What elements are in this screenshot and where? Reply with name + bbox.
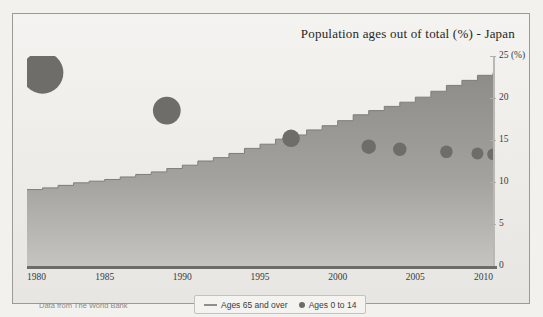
y-axis-tick-mark	[490, 98, 496, 99]
source-note: Data from The World Bank	[39, 301, 128, 310]
y-axis-line	[493, 56, 495, 268]
plot-area	[27, 56, 493, 266]
legend-entry-ages-65-and-over: Ages 65 and over	[204, 300, 288, 310]
bubble-point	[362, 140, 376, 154]
y-axis-tick-mark	[490, 56, 496, 57]
page-title: Population ages out of total (%) - Japan	[301, 26, 515, 42]
legend-label-ages-0-to-14: Ages 0 to 14	[309, 300, 357, 310]
bubble-point	[282, 130, 300, 148]
x-axis-tick-label: 1985	[95, 272, 114, 282]
chart-frame: Population ages out of total (%) - Japan	[12, 13, 530, 304]
x-axis-tick-label: 1990	[173, 272, 192, 282]
legend-label-ages-65-and-over: Ages 65 and over	[221, 300, 288, 310]
x-axis-tick-label: 1995	[251, 272, 270, 282]
legend-entry-ages-0-to-14: Ages 0 to 14	[299, 300, 357, 310]
y-axis-tick-mark	[490, 140, 496, 141]
y-axis-tick-label: 0	[499, 260, 504, 270]
chart-page: Population ages out of total (%) - Japan	[0, 0, 543, 317]
x-axis-line	[27, 266, 497, 269]
x-axis-tick-label: 2010	[474, 272, 493, 282]
bubble-point	[472, 147, 484, 159]
y-axis-tick-mark	[490, 224, 496, 225]
x-axis-tick-label: 2005	[406, 272, 425, 282]
x-axis-tick-label: 1980	[27, 272, 46, 282]
y-axis-tick-mark	[490, 182, 496, 183]
legend-line-icon	[204, 304, 217, 306]
y-axis-tick-label: 25 (%)	[499, 50, 525, 60]
y-axis-tick-label: 5	[499, 218, 504, 228]
chart-canvas	[27, 56, 493, 266]
bubble-point	[153, 97, 181, 125]
bubble-point	[27, 56, 63, 94]
area-series-ages-65-and-over	[27, 73, 493, 266]
y-axis-tick-label: 20	[499, 92, 509, 102]
x-axis-tick-label: 2000	[328, 272, 347, 282]
legend-dot-icon	[299, 302, 305, 308]
chart-legend: Ages 65 and over Ages 0 to 14	[194, 295, 366, 314]
y-axis-tick-label: 10	[499, 176, 509, 186]
bubble-point	[393, 142, 407, 156]
bubble-point	[440, 145, 453, 158]
y-axis-tick-label: 15	[499, 134, 509, 144]
